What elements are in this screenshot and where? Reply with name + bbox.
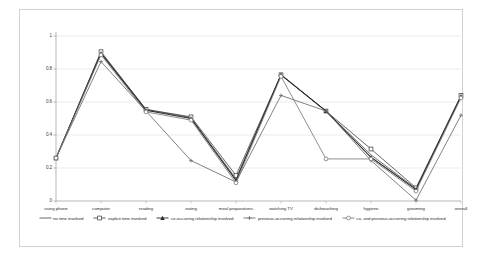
y-axis-tick-label: 0.6 [30, 99, 52, 104]
y-axis-tick-label: 0.2 [30, 165, 52, 170]
legend-label: co-occurring relationship involved [171, 216, 233, 221]
data-point-marker [54, 156, 58, 160]
y-axis-tick-label: 0 [30, 198, 52, 203]
plot-area: 00.20.40.60.81 using phonecomputerreadin… [20, 10, 464, 248]
series-line [56, 52, 461, 188]
legend-item: previous-occurring relationship involved [243, 215, 331, 221]
data-point-marker [346, 216, 350, 220]
legend-label: no time involved [53, 216, 83, 221]
legend-item: no time involved [39, 215, 84, 221]
chart-canvas [20, 10, 464, 248]
legend-swatch-icon [156, 215, 169, 221]
legend-label: co- and previous-occurring relationship … [356, 216, 445, 221]
legend-item: co- and previous-occurring relationship … [342, 215, 446, 221]
y-axis-tick-label: 0.4 [30, 132, 52, 137]
series-line [56, 53, 461, 189]
legend-label: explicit time involved [108, 216, 147, 221]
data-point-marker [248, 216, 252, 220]
legend-label: previous-occurring relationship involved [258, 216, 332, 221]
data-point-marker [279, 94, 283, 98]
legend-swatch-icon [243, 215, 256, 221]
legend-swatch-icon [342, 215, 355, 221]
data-point-marker [98, 216, 102, 220]
chart-figure: 00.20.40.60.81 using phonecomputerreadin… [19, 9, 463, 247]
data-point-marker [234, 181, 238, 185]
data-point-marker [369, 157, 373, 161]
legend-item: explicit time involved [93, 215, 146, 221]
data-point-marker [369, 147, 373, 151]
legend-swatch-icon [93, 215, 106, 221]
y-axis-tick-label: 1 [30, 33, 52, 38]
data-point-marker [144, 110, 148, 114]
chart-legend: no time involvedexplicit time involvedco… [20, 215, 464, 221]
data-point-marker [99, 53, 103, 57]
data-point-marker [324, 157, 328, 161]
data-point-marker [459, 113, 463, 117]
data-point-marker [414, 189, 418, 193]
legend-item: co-occurring relationship involved [156, 215, 233, 221]
legend-swatch-icon [39, 215, 52, 221]
x-axis-category-label: overall [431, 206, 482, 211]
data-point-marker [189, 118, 193, 122]
data-point-marker [279, 75, 283, 79]
series-line [56, 55, 461, 191]
data-point-marker [459, 96, 463, 100]
y-axis-tick-label: 0.8 [30, 66, 52, 71]
